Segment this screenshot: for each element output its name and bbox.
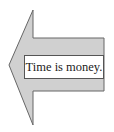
arrow-label: Time is money. — [24, 55, 104, 79]
